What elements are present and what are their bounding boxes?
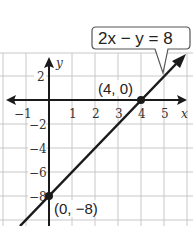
point-label-0-neg8: (0, −8) <box>54 200 98 217</box>
y-axis-label: y <box>55 56 63 70</box>
svg-text:1: 1 <box>69 107 77 121</box>
svg-text:2: 2 <box>37 70 45 84</box>
point-4-0 <box>137 96 145 104</box>
y-tick-labels: 2 −2 −4 −6 −8 <box>28 70 47 204</box>
equation-label: 2x − y = 8 <box>98 29 173 48</box>
svg-text:−6: −6 <box>29 166 47 180</box>
svg-text:−2: −2 <box>29 118 47 132</box>
x-axis-label: x <box>181 107 188 121</box>
svg-text:−4: −4 <box>29 142 47 156</box>
svg-text:2: 2 <box>92 107 100 121</box>
point-0-neg8 <box>45 192 53 200</box>
x-axis <box>6 95 187 105</box>
point-label-4-0: (4, 0) <box>98 80 133 97</box>
graph: x y −1 1 2 3 4 5 2 −2 −4 −6 −8 (4, 0) (0… <box>0 0 193 226</box>
svg-text:4: 4 <box>138 107 146 121</box>
svg-text:5: 5 <box>161 107 169 121</box>
